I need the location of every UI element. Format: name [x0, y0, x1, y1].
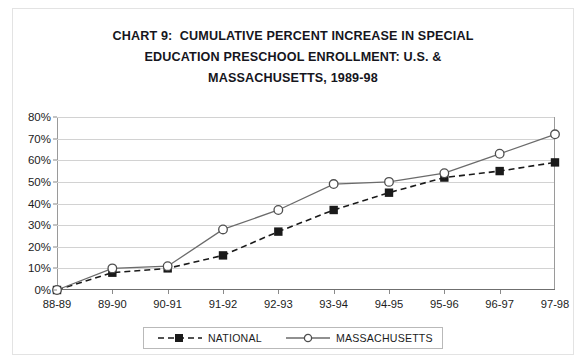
legend: NATIONAL MASSACHUSETTS	[143, 327, 443, 349]
data-point	[274, 206, 283, 215]
y-axis-tick	[53, 268, 57, 269]
data-point	[219, 251, 227, 259]
series-layer	[57, 117, 357, 267]
y-axis-tick-label: 10%	[7, 262, 51, 274]
data-point	[385, 188, 393, 196]
x-axis-tick-label: 88-89	[43, 298, 72, 310]
data-point	[108, 264, 117, 273]
data-point	[440, 169, 449, 178]
y-axis-tick	[53, 181, 57, 182]
y-axis-tick	[53, 246, 57, 247]
y-axis-tick	[53, 203, 57, 204]
x-axis-tick-label: 96-97	[485, 298, 514, 310]
data-point	[329, 206, 337, 214]
data-point	[219, 225, 228, 234]
x-axis-tick	[334, 290, 335, 294]
x-axis-tick-label: 95-96	[430, 298, 459, 310]
x-axis-tick	[444, 290, 445, 294]
y-axis-tick-label: 30%	[7, 219, 51, 231]
x-axis-tick-label: 89-90	[98, 298, 127, 310]
chart-title-line-2: EDUCATION PRESCHOOL ENROLLMENT: U.S. &	[40, 47, 546, 68]
x-axis-tick	[278, 290, 279, 294]
y-axis-tick-label: 20%	[7, 241, 51, 253]
legend-key-massachusetts-icon	[285, 332, 331, 344]
x-axis-tick-label: 90-91	[153, 298, 182, 310]
y-axis-tick-label: 50%	[7, 176, 51, 188]
legend-key-national-icon	[157, 332, 203, 344]
y-axis-tick	[53, 117, 57, 118]
x-axis-tick-label: 94-95	[375, 298, 404, 310]
x-axis-tick	[112, 290, 113, 294]
axis-x	[57, 289, 555, 290]
chart-title: CHART 9: CUMULATIVE PERCENT INCREASE IN …	[40, 26, 546, 89]
y-axis-tick-label: 60%	[7, 154, 51, 166]
data-point	[551, 158, 559, 166]
x-axis-tick-label: 91-92	[209, 298, 238, 310]
x-axis-tick	[168, 290, 169, 294]
x-axis-tick	[223, 290, 224, 294]
chart-title-line-1: CHART 9: CUMULATIVE PERCENT INCREASE IN …	[40, 26, 546, 47]
data-point	[385, 178, 394, 187]
gridline	[57, 268, 555, 269]
y-axis-tick-label: 0%	[7, 284, 51, 296]
y-axis-tick	[53, 138, 57, 139]
legend-label-massachusetts: MASSACHUSETTS	[336, 332, 433, 344]
legend-item-national: NATIONAL	[157, 328, 262, 348]
legend-label-national: NATIONAL	[208, 332, 262, 344]
legend-item-massachusetts: MASSACHUSETTS	[285, 328, 433, 348]
chart-title-line-3: MASSACHUSETTS, 1989-98	[40, 68, 546, 89]
data-point	[495, 167, 503, 175]
data-point	[551, 130, 560, 139]
x-axis-tick-label: 92-93	[264, 298, 293, 310]
data-point	[163, 262, 172, 271]
data-point	[274, 227, 282, 235]
x-axis-tick	[389, 290, 390, 294]
x-axis-tick-label: 93-94	[319, 298, 348, 310]
y-axis-tick-label: 80%	[7, 111, 51, 123]
y-axis-tick-label: 40%	[7, 198, 51, 210]
plot-area	[57, 117, 555, 290]
x-axis-tick-label: 97-98	[541, 298, 570, 310]
y-axis-tick	[53, 225, 57, 226]
y-axis-tick	[53, 160, 57, 161]
y-axis-tick	[53, 290, 57, 291]
data-point	[495, 149, 504, 158]
data-point	[329, 180, 338, 189]
axis-right	[554, 117, 555, 290]
chart-page: CHART 9: CUMULATIVE PERCENT INCREASE IN …	[0, 0, 586, 364]
x-axis-tick	[500, 290, 501, 294]
y-axis-tick-label: 70%	[7, 133, 51, 145]
